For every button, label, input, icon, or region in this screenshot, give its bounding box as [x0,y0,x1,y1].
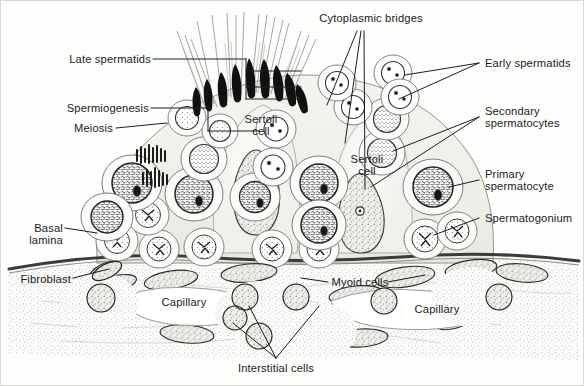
label-spermatogonium: Spermatogonium [485,212,572,224]
label-meiosis: Meiosis [19,122,113,134]
label-sertoli-cell-2-line1: Sertoli [339,153,395,165]
early-spermatid-cell [381,79,419,115]
label-spermiogenesis: Spermiogenesis [19,102,149,114]
label-capillary-right: Capillary [409,303,465,315]
label-basal-lamina-line2: lamina [1,234,63,246]
seminiferous-tubule-figure: Cytoplasmic bridges Late spermatids Sper… [0,0,584,386]
primary-spermatocyte-cell [403,159,463,215]
label-interstitial-cells: Interstitial cells [226,362,326,374]
label-primary-spermatocyte-line2: spermatocyte [485,180,554,192]
spermatogonium-cell [139,230,179,268]
label-fibroblast: Fibroblast [1,273,71,285]
label-late-spermatids: Late spermatids [21,53,151,65]
spermatogonium-cell [437,212,477,250]
label-secondary-spermatocytes-line1: Secondary [485,105,540,117]
spermatogonium-cell [184,228,224,266]
label-secondary-spermatocytes-line2: spermatocytes [485,117,560,129]
label-sertoli-cell-1-line2: cell [233,125,289,137]
early-spermatid-cell [318,65,356,101]
label-sertoli-cell-2-line2: cell [339,165,395,177]
label-cytoplasmic-bridges: Cytoplasmic bridges [301,12,441,24]
primary-spermatocyte-cell [292,200,346,250]
early-spermatid-cell [253,148,293,186]
spermatogonium-cell [252,230,292,268]
label-capillary-left: Capillary [156,296,212,308]
primary-spermatocyte-cell [81,193,133,241]
label-basal-lamina-line1: Basal [1,222,63,234]
label-primary-spermatocyte-line1: Primary [485,168,525,180]
leader-meiosis [116,123,167,128]
label-sertoli-cell-1-line1: Sertoli [233,113,289,125]
label-myoid-cells: Myoid cells [331,276,389,288]
label-early-spermatids: Early spermatids [485,57,571,69]
